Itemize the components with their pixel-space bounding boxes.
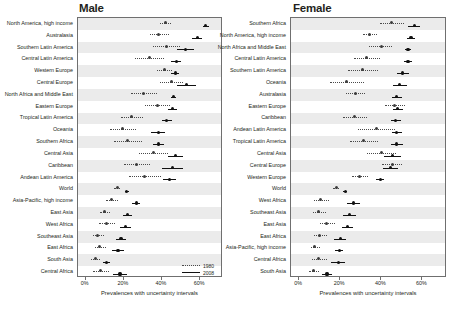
point-estimate-marker xyxy=(143,175,146,178)
plot-band-row xyxy=(78,219,221,231)
plot-band-row xyxy=(291,195,445,207)
plot-band-row xyxy=(291,65,445,77)
plot-band-row xyxy=(78,148,221,160)
point-estimate-marker xyxy=(156,104,159,107)
plot-band-row xyxy=(78,53,221,65)
point-estimate-marker xyxy=(157,142,160,145)
row-label: South Asia xyxy=(47,256,73,262)
point-estimate-marker xyxy=(157,131,160,134)
legend-item: 1980 xyxy=(182,262,214,269)
row-label: Central Africa xyxy=(41,268,73,274)
legend-item: 2008 xyxy=(182,269,214,276)
row-label: Caribbean xyxy=(48,162,73,168)
point-estimate-marker xyxy=(338,249,341,252)
point-estimate-marker xyxy=(352,201,355,204)
row-label: West Africa xyxy=(46,221,73,227)
plot-band-row xyxy=(291,136,445,148)
point-estimate-marker xyxy=(165,45,168,48)
point-estimate-marker xyxy=(380,45,383,48)
row-label: Tropical Latin America xyxy=(20,114,73,120)
point-estimate-marker xyxy=(110,198,113,201)
row-label: Southeast Asia xyxy=(250,209,286,215)
panel-male: Male North America, high incomeAustralas… xyxy=(0,0,224,314)
row-label: Central Asia xyxy=(44,150,73,156)
legend-label: 2008 xyxy=(203,270,214,276)
plot-band-row xyxy=(78,65,221,77)
plot-area-female xyxy=(290,17,446,277)
point-estimate-marker xyxy=(94,257,97,260)
row-label: East Asia xyxy=(51,209,73,215)
x-axis-title-male: Prevalences with uncertainty intervals xyxy=(77,290,222,296)
point-estimate-marker xyxy=(379,178,382,181)
x-axis-title-female: Prevalences with uncertainty intervals xyxy=(290,290,446,296)
point-estimate-marker xyxy=(116,249,119,252)
plot-band-row xyxy=(291,124,445,136)
point-estimate-marker xyxy=(354,92,357,95)
x-axis-tick-label: 20% xyxy=(334,280,345,286)
plot-band-row xyxy=(291,160,445,172)
x-axis-tick-label: 40% xyxy=(156,280,167,286)
point-estimate-marker xyxy=(391,163,394,166)
row-label: Central Europe xyxy=(37,79,73,85)
row-label: Southern Latin America xyxy=(17,44,73,50)
x-axis-tick-label: 60% xyxy=(416,280,427,286)
plot-band-row xyxy=(78,243,221,255)
plot-band-row xyxy=(78,113,221,125)
forest-plot-figure: Male North America, high incomeAustralas… xyxy=(0,0,449,314)
row-label: Andean Latin America xyxy=(20,174,73,180)
row-label: Asia-Pacific, high income xyxy=(226,244,286,250)
plot-band-row xyxy=(291,89,445,101)
plot-band-row xyxy=(291,183,445,195)
row-label: Western Europe xyxy=(34,67,73,73)
row-label: North Africa and Middle East xyxy=(218,44,286,50)
plot-band-row xyxy=(291,30,445,42)
legend-label: 1980 xyxy=(203,263,214,269)
plot-band-row xyxy=(291,148,445,160)
row-label: Central Europe xyxy=(250,162,286,168)
plot-band-row xyxy=(291,101,445,113)
plot-band-row xyxy=(78,231,221,243)
plot-band-row xyxy=(78,89,221,101)
panel-female: Female Southern AfricaNorth America, hig… xyxy=(224,0,449,314)
point-estimate-marker xyxy=(375,127,378,130)
row-label: South Asia xyxy=(260,268,286,274)
x-axis-male: 0%20%40%60% xyxy=(77,277,222,291)
point-estimate-marker xyxy=(175,60,178,63)
plot-band-row xyxy=(78,101,221,113)
row-label: Southern Latin America xyxy=(230,67,286,73)
point-estimate-marker xyxy=(393,104,396,107)
point-estimate-marker xyxy=(406,48,409,51)
x-axis-tick-label: 0% xyxy=(294,280,302,286)
panel-title-male: Male xyxy=(79,2,104,14)
row-label: Southern Africa xyxy=(36,138,73,144)
row-label: Central Latin America xyxy=(234,55,286,61)
plot-band-row xyxy=(291,77,445,89)
plot-band-row xyxy=(291,231,445,243)
row-label: Tropical Latin America xyxy=(233,138,286,144)
plot-band-row xyxy=(78,124,221,136)
row-label: Asia-Pacific, high income xyxy=(13,197,73,203)
panel-title-female: Female xyxy=(293,2,331,14)
plot-band-row xyxy=(291,172,445,184)
point-estimate-marker xyxy=(344,190,347,193)
plot-band-row xyxy=(78,207,221,219)
point-estimate-marker xyxy=(170,80,173,83)
point-estimate-marker xyxy=(119,237,122,240)
x-axis-tick-label: 40% xyxy=(375,280,386,286)
plot-area-male xyxy=(77,17,222,277)
row-label: Oceania xyxy=(266,79,286,85)
row-label: West Africa xyxy=(259,197,286,203)
plot-band-row xyxy=(291,42,445,54)
point-estimate-marker xyxy=(196,36,199,39)
point-estimate-marker xyxy=(409,36,412,39)
row-label: North America, high income xyxy=(220,32,286,38)
point-estimate-marker xyxy=(406,60,409,63)
plot-band-row xyxy=(291,219,445,231)
point-estimate-marker xyxy=(325,272,328,275)
row-label: North America, high income xyxy=(7,20,73,26)
x-axis-tick-label: 20% xyxy=(117,280,128,286)
point-estimate-marker xyxy=(174,71,177,74)
x-axis-tick-label: 0% xyxy=(81,280,89,286)
legend-male: 19802008 xyxy=(182,262,214,276)
plot-band-row xyxy=(78,77,221,89)
